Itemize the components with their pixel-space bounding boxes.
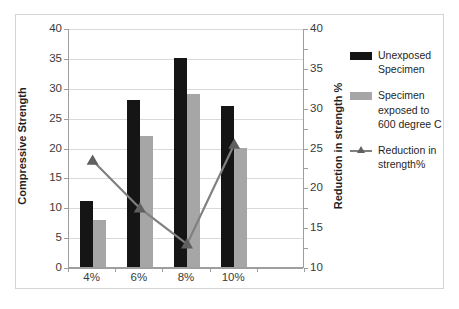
x-axis-tickmark [162,268,163,272]
line-series-layer [69,29,305,268]
right-axis-tick-label: 10 [310,262,323,274]
x-axis-tickmark [68,268,69,272]
left-axis-tick-label: 5 [56,232,62,244]
left-axis-tick-label: 35 [49,53,62,65]
x-axis-tickmark [304,268,305,272]
right-axis-tick-label: 15 [310,222,323,234]
chart-container: Compressive Strength Reduction in streng… [0,0,459,309]
x-axis-tick-label: 10% [203,272,263,284]
gridline [69,268,303,269]
legend-entry: Unexposed Specimen [350,48,442,76]
right-axis-tick-label: 30 [310,103,323,115]
right-axis-tick-label: 35 [310,63,323,75]
left-axis-tick-label: 40 [49,23,62,35]
left-axis-tick-label: 10 [49,202,62,214]
legend-triangle-icon [357,146,365,153]
legend-swatch-icon [350,48,372,64]
left-axis-tick-label: 20 [49,143,62,155]
legend-swatch [350,52,372,60]
left-axis-tick-labels: 4035302520151050 [34,29,62,268]
right-axis-tick-labels: 40353025201510 [310,29,340,268]
legend-entry: Specimen exposed to 600 degree C [350,88,442,131]
legend-entry: Reduction in strength% [350,143,442,171]
legend-label: Unexposed Specimen [378,48,442,76]
x-axis-tickmark [210,268,211,272]
x-axis-tick-labels: 4%6%8%10% [68,272,304,292]
x-axis-tickmark [115,268,116,272]
line-path [93,145,235,245]
right-axis-tick-label: 40 [310,23,323,35]
plot-area [68,29,304,268]
x-axis-tickmark [257,268,258,272]
line-marker-triangle [87,154,99,164]
legend-label: Specimen exposed to 600 degree C [378,88,442,131]
legend-label: Reduction in strength% [378,143,442,171]
line-marker-triangle [228,139,240,149]
legend-swatch [350,92,372,100]
left-axis-tick-label: 25 [49,113,62,125]
legend-swatch-icon [350,88,372,104]
right-axis-tick-label: 20 [310,182,323,194]
chart-legend: Unexposed SpecimenSpecimen exposed to 60… [350,48,442,183]
legend-line-marker-icon [350,143,372,159]
right-axis-tick-label: 25 [310,143,323,155]
left-axis-tick-label: 15 [49,172,62,184]
left-axis-tick-label: 30 [49,83,62,95]
left-axis-title: Compressive Strength [16,66,28,226]
